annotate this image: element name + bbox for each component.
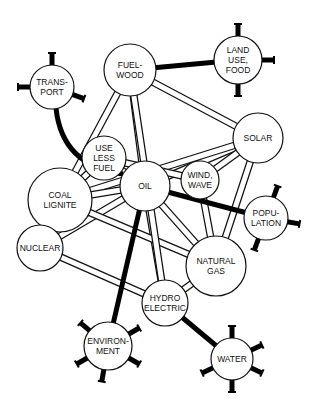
node-label: FUEL- — [118, 60, 143, 70]
node-label: FOOD — [226, 65, 251, 75]
node-label: FUEL — [93, 163, 115, 173]
node-label: POPU- — [253, 208, 280, 218]
node-water: WATER — [211, 338, 253, 380]
node-transport: TRANS-PORT — [30, 65, 74, 109]
energy-network-diagram: FUEL-WOODLANDUSE,FOODTRANS-PORTUSELESSFU… — [0, 0, 322, 403]
node-windwave: WIND,WAVE — [181, 161, 219, 199]
node-landuse: LANDUSE,FOOD — [214, 36, 262, 84]
node-label: ELECTRIC — [144, 303, 186, 313]
node-label: NATURAL — [196, 256, 235, 266]
node-population: POPU-LATION — [244, 196, 288, 240]
node-label: WATER — [217, 354, 247, 364]
node-label: LESS — [93, 153, 115, 163]
node-coal: COALLIGNITE — [28, 168, 92, 232]
node-label: WIND, — [187, 170, 212, 180]
node-label: MENT — [96, 346, 120, 356]
node-naturalgas: NATURALGAS — [186, 236, 246, 296]
node-uselessfuel: USELESSFUEL — [82, 136, 126, 180]
node-label: LATION — [251, 218, 281, 228]
spike-tip-icon — [299, 220, 300, 228]
spike-tip-icon — [98, 381, 106, 382]
node-label: ENVIRON- — [87, 336, 129, 346]
node-solar: SOLAR — [233, 113, 283, 163]
node-label: LIGNITE — [43, 200, 76, 210]
node-label: USE — [95, 143, 113, 153]
node-label: TRANS- — [36, 77, 68, 87]
node-circles: FUEL-WOODLANDUSE,FOODTRANS-PORTUSELESSFU… — [17, 36, 288, 380]
node-label: COAL — [48, 190, 71, 200]
node-environment: ENVIRON-MENT — [84, 322, 132, 370]
node-label: OIL — [138, 181, 152, 191]
node-label: SOLAR — [244, 133, 273, 143]
node-label: WOOD — [116, 70, 143, 80]
node-label: HYDRO — [150, 293, 181, 303]
node-label: LAND — [227, 45, 250, 55]
node-label: USE, — [228, 55, 248, 65]
node-oil: OIL — [120, 161, 170, 211]
node-label: WAVE — [188, 180, 212, 190]
node-fuelwood: FUEL-WOOD — [104, 44, 156, 96]
node-label: PORT — [40, 87, 63, 97]
node-label: GAS — [207, 266, 225, 276]
node-label: NUCLEAR — [20, 243, 61, 253]
node-nuclear: NUCLEAR — [17, 225, 63, 271]
node-hydro: HYDROELECTRIC — [142, 280, 188, 326]
